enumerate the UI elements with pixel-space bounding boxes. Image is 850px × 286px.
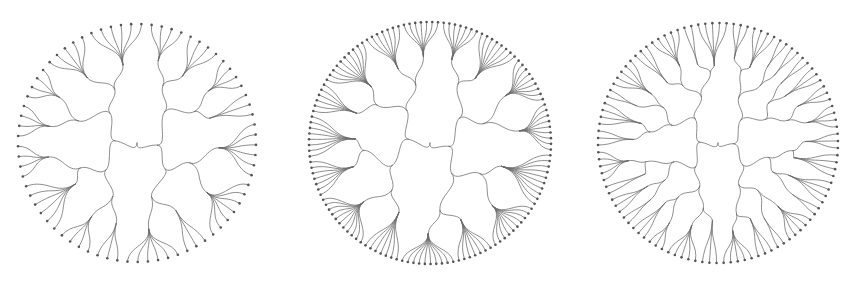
- leaf-node: [19, 165, 22, 168]
- tree-edge: [672, 117, 695, 125]
- tree-edge: [738, 165, 744, 185]
- leaf-node: [475, 30, 478, 33]
- leaf-node: [550, 148, 553, 151]
- leaf-node: [379, 252, 382, 255]
- leaf-node: [100, 28, 103, 31]
- leaf-node: [401, 259, 404, 262]
- leaf-node: [687, 258, 690, 261]
- tree-edge: [310, 128, 355, 139]
- leaf-node: [308, 155, 311, 158]
- tree-edge: [151, 169, 166, 197]
- tree-edge: [633, 132, 650, 140]
- leaf-node: [352, 48, 355, 51]
- leaf-node: [325, 204, 328, 207]
- leaf-node: [597, 151, 600, 154]
- leaf-node: [753, 27, 756, 30]
- leaf-node: [130, 23, 133, 26]
- leaf-node: [527, 212, 530, 215]
- leaf-node: [528, 73, 531, 76]
- tree-edge: [710, 65, 714, 72]
- tree-edge: [769, 151, 793, 159]
- leaf-node: [48, 61, 51, 64]
- leaf-node: [550, 143, 553, 146]
- tree-edge: [194, 111, 210, 118]
- tree-edge: [18, 126, 49, 136]
- leaf-node: [116, 259, 119, 262]
- leaf-node: [248, 103, 251, 106]
- leaf-node: [310, 121, 313, 124]
- tree-edge: [24, 106, 50, 126]
- leaf-node: [150, 24, 153, 27]
- leaf-node: [245, 94, 248, 97]
- tree-edge: [692, 209, 704, 226]
- tree-edge: [741, 117, 766, 120]
- leaf-node: [824, 195, 827, 198]
- leaf-node: [505, 48, 508, 51]
- tree-edge: [108, 89, 115, 113]
- leaf-node: [546, 171, 549, 174]
- leaf-node: [81, 36, 84, 39]
- tree-edge: [483, 122, 519, 131]
- figure-canvas: [0, 0, 850, 286]
- tree-edge: [423, 22, 438, 56]
- tree-edge: [781, 58, 803, 83]
- leaf-node: [770, 249, 773, 252]
- tree-edge: [633, 203, 665, 228]
- leaf-node: [140, 23, 143, 26]
- leaf-node: [323, 83, 326, 86]
- tree-edge: [738, 97, 743, 120]
- leaf-node: [708, 261, 711, 264]
- leaf-node: [177, 253, 180, 256]
- leaf-node: [539, 192, 542, 195]
- leaf-node: [309, 161, 312, 164]
- leaf-node: [513, 55, 516, 58]
- leaf-node: [469, 256, 472, 259]
- leaf-node: [110, 26, 113, 29]
- leaf-node: [18, 125, 21, 128]
- leaf-node: [72, 41, 75, 44]
- leaf-node: [308, 149, 311, 152]
- radial-tree-3: [592, 17, 844, 269]
- tree-edge: [739, 185, 758, 191]
- leaf-node: [87, 250, 90, 253]
- tree-edge: [636, 105, 663, 107]
- leaf-node: [308, 132, 311, 135]
- tree-edge: [766, 103, 768, 119]
- leaf-node: [431, 21, 434, 24]
- leaf-node: [757, 255, 760, 258]
- tree-edge: [714, 23, 719, 65]
- leaf-node: [697, 23, 700, 26]
- tree-edge: [452, 29, 472, 59]
- tree-edge: [736, 185, 741, 215]
- tree-edge: [644, 203, 665, 238]
- leaf-node: [374, 250, 377, 253]
- leaf-node: [253, 123, 256, 126]
- leaf-node: [157, 259, 160, 262]
- leaf-node: [29, 194, 32, 197]
- leaf-node: [34, 203, 37, 206]
- leaf-node: [750, 257, 753, 260]
- tree-edge: [194, 91, 209, 112]
- tree-edge: [734, 120, 741, 144]
- leaf-node: [254, 133, 257, 136]
- leaf-node: [601, 172, 604, 175]
- leaf-node: [690, 25, 693, 28]
- leaf-node: [31, 86, 34, 89]
- leaf-node: [355, 238, 358, 241]
- tree-edge: [617, 78, 651, 94]
- tree-edge: [395, 26, 399, 68]
- tree-edge: [413, 234, 428, 263]
- tree-edge: [210, 95, 246, 118]
- tree-edge: [712, 221, 716, 263]
- tree-edge: [415, 57, 423, 86]
- leaf-node: [120, 24, 123, 27]
- leaf-node: [545, 176, 548, 179]
- leaf-node: [718, 22, 721, 25]
- leaf-node: [243, 193, 246, 196]
- leaf-node: [437, 21, 440, 24]
- tree-edge: [502, 166, 540, 193]
- leaf-node: [235, 76, 238, 79]
- leaf-node: [435, 263, 438, 266]
- leaf-node: [801, 57, 804, 60]
- leaf-node: [832, 175, 835, 178]
